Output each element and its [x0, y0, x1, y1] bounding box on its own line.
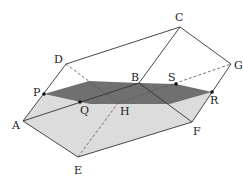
edge-cg: [180, 27, 231, 64]
label-s: S: [168, 71, 176, 84]
label-g: G: [234, 59, 243, 72]
label-e: E: [74, 164, 82, 177]
edge-dc: [66, 27, 180, 64]
label-q: Q: [80, 104, 89, 117]
parallelepiped-diagram: C D G B S P R Q H A F E: [0, 0, 243, 179]
label-b: B: [131, 71, 139, 84]
label-a: A: [11, 119, 21, 132]
label-h: H: [120, 105, 130, 118]
label-r: R: [210, 94, 219, 107]
label-d: D: [54, 53, 63, 66]
diagram-canvas: C D G B S P R Q H A F E: [0, 0, 243, 179]
point-p: [42, 92, 46, 96]
label-c: C: [175, 11, 183, 24]
label-p: P: [33, 86, 41, 99]
label-f: F: [193, 125, 201, 138]
